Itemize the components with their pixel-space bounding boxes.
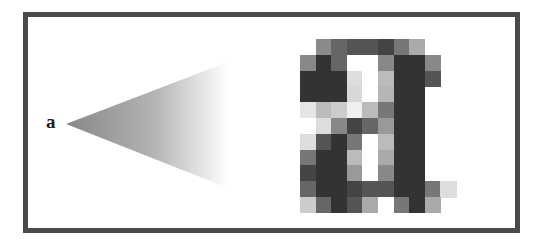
glyph-pixel (347, 165, 363, 181)
glyph-pixel (331, 165, 347, 181)
glyph-pixel (409, 197, 425, 213)
glyph-pixel (300, 86, 316, 102)
glyph-pixel (362, 197, 378, 213)
glyph-pixel (347, 71, 363, 87)
magnified-pixel-glyph (300, 39, 472, 212)
glyph-pixel (409, 71, 425, 87)
glyph-pixel (394, 150, 410, 166)
glyph-pixel (347, 181, 363, 197)
glyph-pixel (378, 134, 394, 150)
glyph-pixel (362, 181, 378, 197)
glyph-pixel (378, 39, 394, 55)
glyph-pixel (347, 150, 363, 166)
glyph-pixel (409, 181, 425, 197)
glyph-pixel (409, 118, 425, 134)
glyph-pixel (409, 165, 425, 181)
small-letter-label: a (46, 112, 56, 131)
glyph-pixel (378, 197, 394, 213)
glyph-pixel (331, 39, 347, 55)
glyph-pixel (394, 118, 410, 134)
glyph-pixel (362, 86, 378, 102)
glyph-pixel (425, 197, 441, 213)
glyph-pixel (409, 102, 425, 118)
glyph-pixel (331, 197, 347, 213)
glyph-pixel (331, 181, 347, 197)
glyph-pixel (378, 181, 394, 197)
glyph-pixel (316, 86, 332, 102)
glyph-pixel (331, 134, 347, 150)
glyph-pixel (409, 86, 425, 102)
glyph-pixel (316, 165, 332, 181)
glyph-pixel (425, 55, 441, 71)
glyph-pixel (300, 71, 316, 87)
glyph-pixel (425, 181, 441, 197)
glyph-pixel (331, 102, 347, 118)
glyph-pixel (347, 55, 363, 71)
glyph-pixel (347, 134, 363, 150)
glyph-pixel (300, 55, 316, 71)
glyph-pixel (331, 150, 347, 166)
glyph-pixel (378, 165, 394, 181)
glyph-pixel (362, 165, 378, 181)
glyph-pixel (347, 86, 363, 102)
glyph-pixel (362, 118, 378, 134)
glyph-pixel (409, 55, 425, 71)
glyph-pixel (331, 118, 347, 134)
glyph-pixel (300, 181, 316, 197)
glyph-pixel (316, 55, 332, 71)
glyph-pixel (300, 150, 316, 166)
glyph-pixel (362, 55, 378, 71)
glyph-pixel (394, 102, 410, 118)
glyph-pixel (331, 86, 347, 102)
glyph-pixel (394, 86, 410, 102)
glyph-pixel (316, 181, 332, 197)
glyph-pixel (425, 71, 441, 87)
glyph-pixel (394, 165, 410, 181)
glyph-pixel (316, 118, 332, 134)
glyph-pixel (394, 197, 410, 213)
glyph-pixel (394, 134, 410, 150)
glyph-pixel (378, 150, 394, 166)
glyph-pixel (378, 55, 394, 71)
glyph-pixel (300, 197, 316, 213)
glyph-pixel (300, 118, 316, 134)
glyph-pixel (347, 118, 363, 134)
glyph-pixel (347, 197, 363, 213)
glyph-pixel (362, 71, 378, 87)
glyph-pixel (347, 102, 363, 118)
glyph-pixel (378, 86, 394, 102)
glyph-pixel (300, 102, 316, 118)
glyph-pixel (409, 134, 425, 150)
glyph-pixel (316, 197, 332, 213)
glyph-pixel (378, 118, 394, 134)
glyph-pixel (362, 102, 378, 118)
glyph-pixel (316, 102, 332, 118)
glyph-pixel (378, 102, 394, 118)
glyph-pixel (394, 181, 410, 197)
glyph-pixel (300, 165, 316, 181)
glyph-pixel (394, 55, 410, 71)
glyph-pixel (394, 71, 410, 87)
glyph-pixel (316, 134, 332, 150)
glyph-pixel (409, 39, 425, 55)
glyph-pixel (316, 71, 332, 87)
glyph-pixel (316, 150, 332, 166)
glyph-pixel (362, 39, 378, 55)
glyph-pixel (331, 71, 347, 87)
glyph-pixel (347, 39, 363, 55)
glyph-pixel (300, 134, 316, 150)
glyph-pixel (331, 55, 347, 71)
glyph-pixel (362, 134, 378, 150)
glyph-pixel (440, 181, 456, 197)
glyph-pixel (409, 150, 425, 166)
glyph-pixel (394, 39, 410, 55)
glyph-pixel (362, 150, 378, 166)
glyph-pixel (378, 71, 394, 87)
glyph-pixel (316, 39, 332, 55)
